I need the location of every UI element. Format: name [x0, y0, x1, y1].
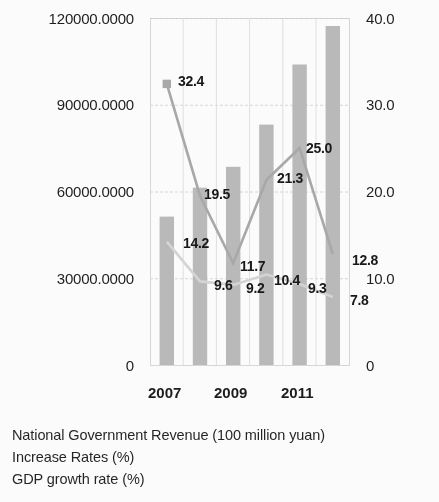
data-label-gdp-2010: 10.4 [274, 272, 300, 288]
chart-figure: 120000.0000 90000.0000 60000.0000 30000.… [0, 0, 439, 502]
legend-item-gdp-growth-rate: GDP growth rate (%) [12, 468, 437, 490]
x-axis-tick-2007: 2007 [148, 384, 181, 401]
data-label-gdp-2009: 9.2 [246, 280, 265, 296]
data-label-increase-2011: 25.0 [306, 140, 332, 156]
data-label-increase-2008: 19.5 [204, 186, 230, 202]
data-label-increase-2010: 21.3 [277, 170, 303, 186]
chart-legend: National Government Revenue (100 million… [12, 424, 437, 490]
x-axis-tick-2011: 2011 [281, 384, 314, 401]
legend-item-national-government-revenue: National Government Revenue (100 million… [12, 424, 437, 446]
data-label-gdp-2012: 7.8 [350, 292, 369, 308]
data-label-increase-2007: 32.4 [178, 73, 204, 89]
x-axis-tick-2009: 2009 [214, 384, 247, 401]
data-label-gdp-2011: 9.3 [308, 280, 327, 296]
bar-2010 [259, 125, 273, 365]
bar-2007 [160, 217, 174, 365]
marker-increase-rates-2007 [163, 80, 171, 88]
bar-2012 [326, 26, 340, 365]
data-label-increase-2012: 12.8 [352, 252, 378, 268]
data-label-increase-2009: 11.7 [240, 258, 265, 274]
bar-2011 [292, 65, 306, 366]
data-label-gdp-2008: 9.6 [214, 277, 233, 293]
data-label-gdp-2007: 14.2 [183, 235, 209, 251]
legend-item-increase-rates: Increase Rates (%) [12, 446, 437, 468]
